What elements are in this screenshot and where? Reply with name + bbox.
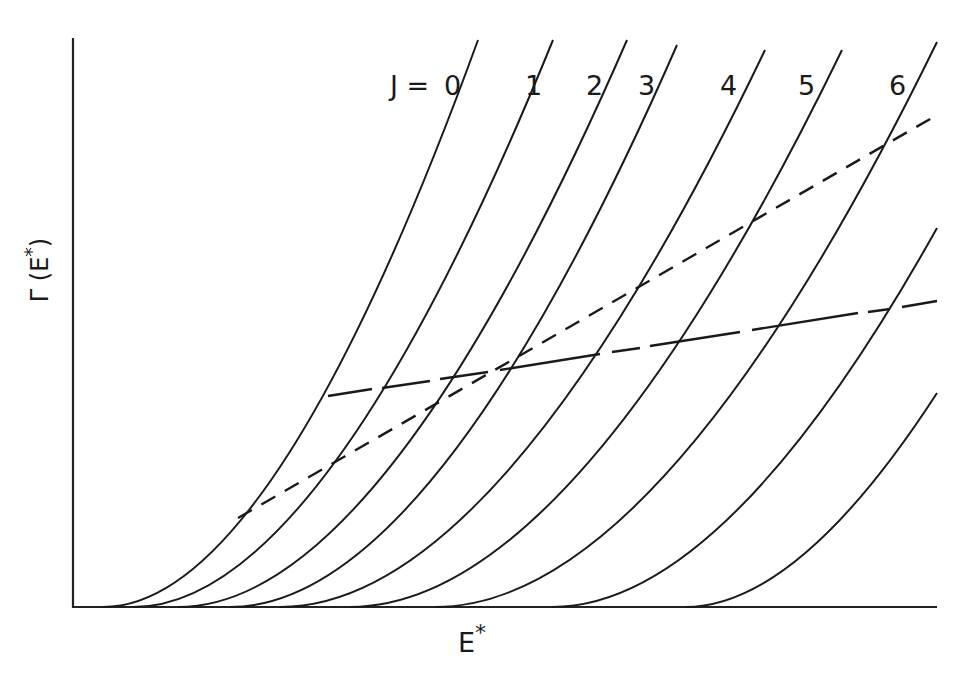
y-axis-label: Γ (E*) (20, 238, 54, 302)
j-label-5: 5 (798, 70, 815, 101)
curve-j4 (280, 50, 765, 607)
x-axis-label: E* (458, 620, 486, 658)
curve-j3 (230, 45, 677, 607)
curve-j7 (552, 228, 937, 607)
j-label-2: 2 (586, 70, 603, 101)
j-label-6: 6 (889, 70, 906, 101)
j-label-0: 0 (444, 70, 461, 101)
curve-family (103, 40, 937, 607)
curve-j1 (133, 40, 553, 607)
reference-lines (238, 115, 937, 518)
j-label-4: 4 (720, 70, 737, 101)
long-dash-line (328, 301, 937, 396)
curve-j2 (178, 40, 627, 607)
gamma-vs-energy-chart: J = 0 1 2 3 4 5 6 E* Γ (E*) (0, 0, 973, 683)
curve-j6 (435, 42, 937, 607)
j-label-1: 1 (525, 70, 542, 101)
j-label-prefix: J = (388, 70, 438, 101)
j-label-3: 3 (638, 70, 655, 101)
